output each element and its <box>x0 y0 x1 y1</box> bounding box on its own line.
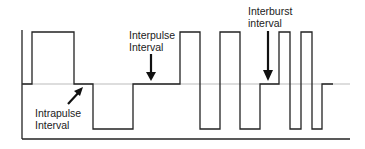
intrapulse-label-line2: Interval <box>35 119 81 131</box>
interpulse-label-line2: Interval <box>129 41 175 53</box>
intrapulse-label-line1: Intrapulse <box>35 107 81 119</box>
interburst-label: Interburst interval <box>248 5 292 29</box>
intrapulse-arrow-icon <box>68 87 83 104</box>
interpulse-label: Interpulse Interval <box>129 29 175 53</box>
interpulse-arrow-icon <box>146 54 156 81</box>
interburst-arrow-icon <box>263 31 273 81</box>
interburst-label-line2: interval <box>248 17 292 29</box>
interburst-label-line1: Interburst <box>248 5 292 17</box>
interpulse-label-line1: Interpulse <box>129 29 175 41</box>
intrapulse-label: Intrapulse Interval <box>35 107 81 131</box>
